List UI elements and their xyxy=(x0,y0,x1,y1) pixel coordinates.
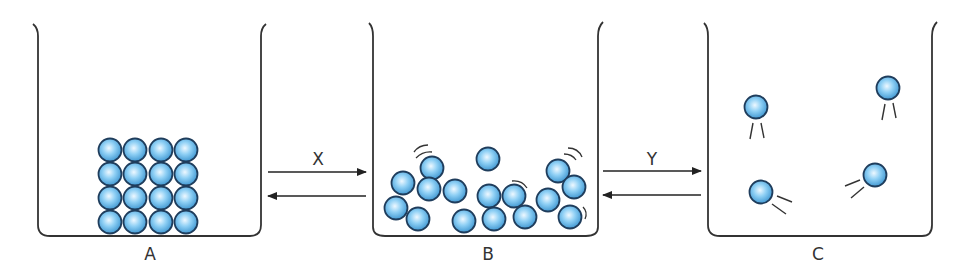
label-a: A xyxy=(144,244,156,264)
solid-particles xyxy=(99,139,198,234)
transition-x: X xyxy=(268,149,366,196)
label-c: C xyxy=(812,244,824,264)
transition-y: Y xyxy=(603,149,701,195)
states-diagram: A X xyxy=(0,0,966,269)
gas-particles xyxy=(745,77,900,204)
liquid-particles xyxy=(385,148,586,233)
beaker-a xyxy=(33,24,266,236)
beaker-b xyxy=(369,22,603,236)
label-x: X xyxy=(312,149,324,169)
beaker-c xyxy=(704,22,937,236)
label-b: B xyxy=(482,244,494,264)
label-y: Y xyxy=(646,149,658,169)
